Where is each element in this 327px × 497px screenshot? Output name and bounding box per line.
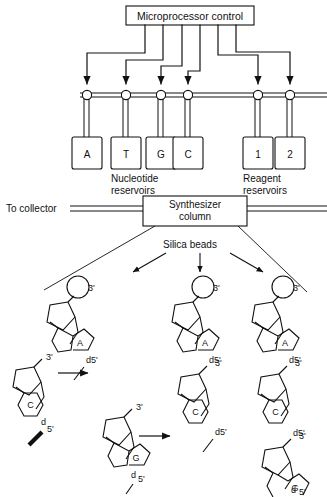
valve-reagent-1[interactable]: [253, 90, 262, 137]
monomer-five-prime-d-label: d: [131, 470, 136, 480]
valve-reagent-2[interactable]: [285, 90, 294, 137]
monomer-base-label-C: C: [27, 400, 34, 410]
microprocessor-control-box: Microprocessor control: [126, 6, 254, 25]
middle-chain: A 3' d5' C 3' d5': [172, 276, 227, 452]
base-label-C: C: [192, 407, 199, 417]
reservoir-bottle-2[interactable]: 2: [275, 137, 305, 169]
synthesis-figure: Microprocessor control: [0, 0, 327, 497]
three-prime-label: 3': [293, 283, 300, 293]
monomer-base-label-G: G: [132, 453, 139, 463]
monomer-three-prime-label: 3': [46, 352, 53, 362]
base-label-A: A: [202, 338, 208, 348]
valve-t[interactable]: [121, 90, 130, 137]
activated-phosphoramidite-bar: [29, 432, 42, 445]
valve-c[interactable]: [183, 90, 192, 137]
collector-pipe: [70, 206, 143, 211]
left-chain: A 3' d5': [47, 276, 98, 380]
control-signal-lines: [87, 25, 290, 84]
monomer-five-prime-d-label: d: [41, 417, 46, 427]
monomer-five-prime-num-label: 5': [47, 424, 54, 434]
valve-a[interactable]: [82, 90, 91, 137]
reservoir-label-g: G: [157, 149, 165, 160]
monomer-c: C 3' d 5': [13, 352, 54, 445]
reservoir-label-2: 2: [287, 149, 293, 160]
reagent-reservoirs-caption: Reagent reservoirs: [243, 173, 287, 196]
five-prime-num-label: 5': [299, 487, 306, 497]
three-prime-label: 3': [295, 358, 302, 368]
three-prime-label: 3': [213, 283, 220, 293]
nucleotide-reservoirs-caption: Nucleotide reservoirs: [111, 173, 159, 196]
silica-bead: [272, 276, 294, 298]
five-prime-label: d5': [215, 427, 227, 437]
reservoir-label-1: 1: [255, 149, 261, 160]
monomer-three-prime-label: 3': [136, 402, 143, 412]
reservoir-bottle-1[interactable]: 1: [243, 137, 273, 169]
reservoir-bottle-g[interactable]: G: [146, 137, 176, 169]
reservoir-bottle-c[interactable]: C: [173, 137, 203, 169]
silica-bead: [192, 276, 214, 298]
five-prime-label: d5': [86, 355, 98, 365]
figure-canvas: Microprocessor control: [0, 0, 327, 497]
base-label-C: C: [272, 407, 279, 417]
monomer-g: G 3' d 5': [103, 402, 150, 494]
base-label-A: A: [282, 338, 288, 348]
three-prime-label: 3': [88, 283, 95, 293]
three-prime-label: 3': [299, 431, 306, 441]
synthesizer-column-label-line1: Synthesizer: [169, 199, 222, 210]
reaction-arrows: [58, 373, 170, 436]
three-prime-label: 3': [215, 358, 222, 368]
nucleotide-caption-line2: reservoirs: [111, 185, 155, 196]
base-label-A: A: [77, 338, 83, 348]
synthesizer-column-box[interactable]: Synthesizer column: [143, 196, 247, 226]
silica-beads-label: Silica beads: [163, 239, 217, 250]
to-collector-label: To collector: [6, 203, 57, 214]
reservoir-label-c: C: [184, 149, 191, 160]
column-inlet-pipe: [247, 206, 327, 211]
monomer-five-prime-num-label: 5': [138, 474, 145, 484]
synthesizer-column-label-line2: column: [179, 211, 211, 222]
reservoir-bottle-a[interactable]: A: [72, 137, 102, 169]
reagent-caption-line1: Reagent: [243, 173, 281, 184]
microprocessor-control-label: Microprocessor control: [137, 10, 243, 22]
five-prime-d-label: d: [291, 485, 296, 495]
reagent-caption-line2: reservoirs: [243, 185, 287, 196]
reservoir-bottles: A T G C 1 2: [72, 137, 305, 169]
reservoir-label-t: T: [123, 149, 129, 160]
silica-beads-arrows: [133, 253, 263, 272]
valve-g[interactable]: [156, 90, 165, 137]
nucleotide-caption-line1: Nucleotide: [111, 173, 159, 184]
right-chain: A 3' d5' C 3' d5' G 3' d 5': [252, 276, 309, 497]
silica-bead: [67, 276, 89, 298]
reservoir-label-a: A: [84, 149, 91, 160]
reservoir-bottle-t[interactable]: T: [111, 137, 141, 169]
